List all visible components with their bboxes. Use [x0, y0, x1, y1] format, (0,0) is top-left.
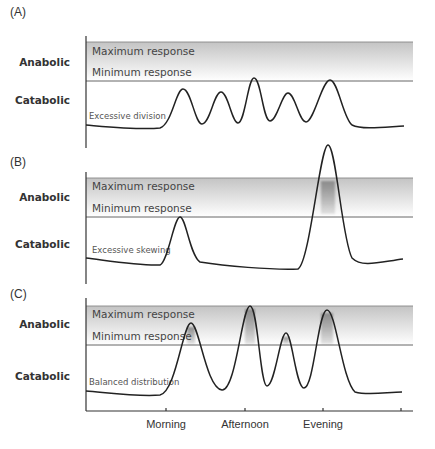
catabolic-label: Catabolic [15, 238, 70, 250]
min-response-label: Minimum response [92, 66, 192, 78]
anabolic-overlap-highlight [283, 337, 289, 344]
panel-letter: (C) [10, 287, 27, 301]
catabolic-label: Catabolic [15, 94, 70, 106]
panel-b: (B) Anabolic Catabolic Maximum response … [10, 145, 413, 284]
max-response-label: Maximum response [92, 308, 195, 320]
panel-letter: (A) [10, 5, 26, 19]
anabolic-overlap-highlight [321, 181, 335, 214]
panel-letter: (B) [10, 155, 26, 169]
x-axis: Morning Afternoon Evening [86, 408, 413, 430]
min-response-label: Minimum response [92, 330, 192, 342]
curve-note: Balanced distribution [89, 377, 179, 387]
max-response-label: Maximum response [92, 45, 195, 57]
anabolic-label: Anabolic [19, 191, 70, 203]
curve-note: Excessive division [89, 111, 166, 121]
curve-note: Excessive skewing [92, 245, 171, 255]
max-response-label: Maximum response [92, 180, 195, 192]
anabolic-label: Anabolic [19, 318, 70, 330]
circadian-response-diagram: (A) Anabolic Catabolic Maximum response … [0, 0, 435, 449]
response-curve [86, 78, 404, 129]
anabolic-label: Anabolic [19, 56, 70, 68]
x-tick-label-afternoon: Afternoon [221, 418, 269, 430]
x-tick-label-evening: Evening [303, 418, 343, 430]
panel-a: (A) Anabolic Catabolic Maximum response … [10, 5, 413, 148]
x-tick-label-morning: Morning [146, 418, 186, 430]
min-response-label: Minimum response [92, 202, 192, 214]
panel-c: (C) Anabolic Catabolic Maximum response … [10, 287, 413, 430]
catabolic-label: Catabolic [15, 370, 70, 382]
